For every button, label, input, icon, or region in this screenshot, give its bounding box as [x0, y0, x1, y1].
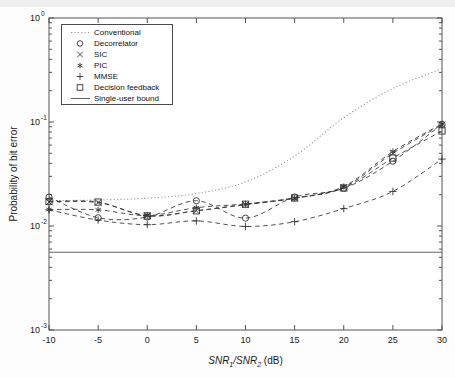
legend-item-decision-feedback[interactable]: Decision feedback [62, 82, 172, 93]
legend-label: Single-user bound [94, 93, 159, 104]
legend-symbol-square-icon [64, 82, 94, 93]
legend-symbol-dotted-icon [64, 27, 94, 38]
legend-label: PIC [94, 60, 107, 71]
y-tick-exponent: -1 [41, 114, 47, 121]
legend-item-sic[interactable]: SIC [62, 49, 172, 60]
x-tick-label: 10 [240, 335, 250, 345]
y-tick-label: 10 [30, 221, 40, 231]
figure-canvas: -10-505101520253010-310-210-1100SNR1/SNR… [0, 0, 455, 378]
legend-label: SIC [94, 49, 107, 60]
legend-symbol-asterisk-icon [64, 60, 94, 71]
x-tick-label: 0 [145, 335, 150, 345]
legend-symbol-solid-icon [64, 93, 94, 104]
legend-item-single-user-bound[interactable]: Single-user bound [62, 93, 172, 104]
chart-legend: ConventionalDecorrelatorSICPICMMSEDecisi… [61, 24, 173, 105]
x-axis-label: SNR1/SNR2 (dB) [208, 355, 283, 368]
y-axis-label: Probability of bit error [8, 126, 19, 222]
x-tick-label: 30 [437, 335, 447, 345]
legend-label: Decorrelator [94, 38, 138, 49]
legend-symbol-plus-icon [64, 71, 94, 82]
legend-label: Conventional [94, 27, 141, 38]
legend-item-decorrelator[interactable]: Decorrelator [62, 38, 172, 49]
x-tick-label: 5 [194, 335, 199, 345]
x-tick-label: 20 [339, 335, 349, 345]
y-tick-exponent: -3 [41, 322, 47, 329]
legend-label: MMSE [94, 71, 118, 82]
legend-label: Decision feedback [94, 82, 159, 93]
legend-symbol-circle-icon [64, 38, 94, 49]
x-tick-label: 15 [290, 335, 300, 345]
x-tick-label: 25 [388, 335, 398, 345]
y-tick-label: 10 [30, 117, 40, 127]
legend-item-mmse[interactable]: MMSE [62, 71, 172, 82]
y-tick-exponent: -2 [41, 218, 47, 225]
y-tick-label: 10 [30, 13, 40, 23]
legend-item-conventional[interactable]: Conventional [62, 27, 172, 38]
x-tick-label: -10 [42, 335, 55, 345]
y-tick-label: 10 [30, 325, 40, 335]
y-tick-exponent: 0 [41, 10, 45, 17]
legend-symbol-x-icon [64, 49, 94, 60]
legend-item-pic[interactable]: PIC [62, 60, 172, 71]
x-tick-label: -5 [94, 335, 102, 345]
